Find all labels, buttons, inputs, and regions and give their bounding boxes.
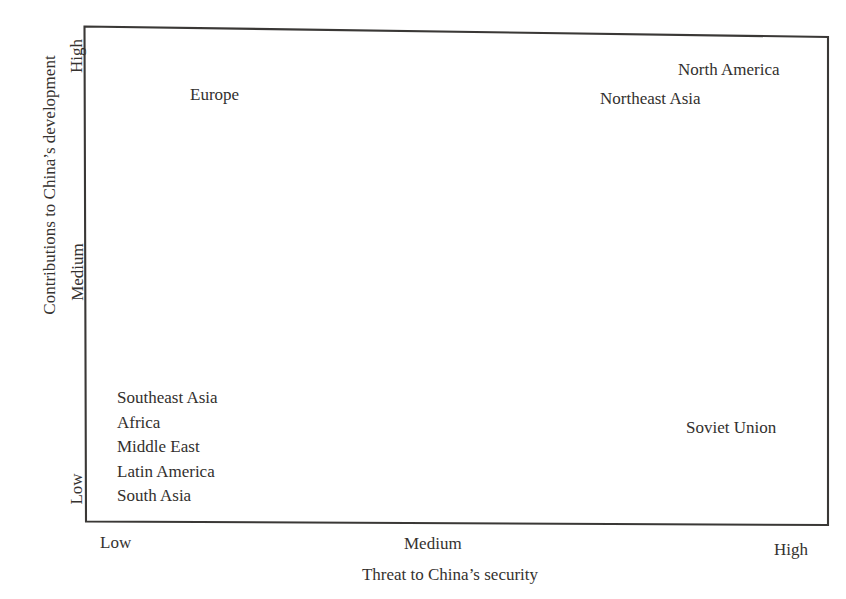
y-axis-tick-high: High bbox=[67, 16, 87, 96]
data-label-africa: Africa bbox=[117, 411, 218, 436]
data-label-cluster-low-low: Southeast Asia Africa Middle East Latin … bbox=[117, 386, 218, 509]
y-axis-tick-low: Low bbox=[67, 449, 87, 529]
data-label-soviet-union: Soviet Union bbox=[686, 418, 776, 438]
data-label-north-america: North America bbox=[678, 60, 780, 80]
x-axis-tick-medium: Medium bbox=[404, 534, 462, 554]
y-axis-tick-medium: Medium bbox=[68, 224, 88, 320]
plot-frame bbox=[0, 0, 846, 599]
data-label-latin-america: Latin America bbox=[117, 460, 218, 485]
y-axis-title: Contributions to China’s development bbox=[40, 0, 60, 385]
x-axis-tick-low: Low bbox=[100, 533, 131, 553]
data-label-southeast-asia: Southeast Asia bbox=[117, 386, 218, 411]
data-label-south-asia: South Asia bbox=[117, 484, 218, 509]
x-axis-tick-high: High bbox=[774, 540, 808, 560]
data-label-europe: Europe bbox=[190, 85, 239, 105]
data-label-northeast-asia: Northeast Asia bbox=[600, 89, 701, 109]
figure-container: Contributions to China’s development Hig… bbox=[0, 0, 846, 599]
data-label-middle-east: Middle East bbox=[117, 435, 218, 460]
x-axis-title: Threat to China’s security bbox=[280, 565, 620, 585]
cropped-caption-remnant bbox=[620, 0, 820, 9]
